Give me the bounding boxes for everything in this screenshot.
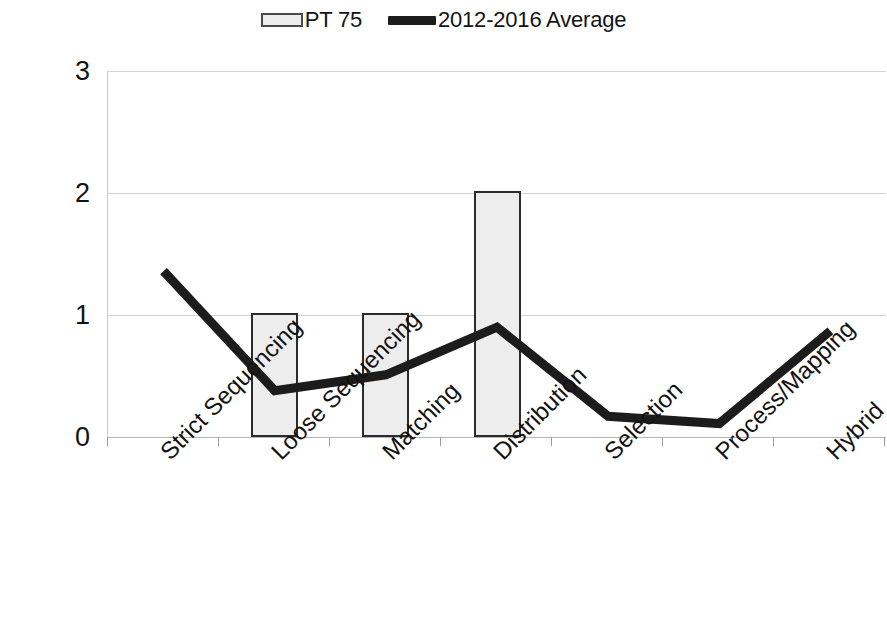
y-axis-labels: 0 1 2 3 — [0, 71, 108, 438]
bar-swatch-icon — [261, 13, 303, 27]
legend-label-line: 2012-2016 Average — [438, 9, 626, 31]
y-tick-label-1: 1 — [75, 302, 90, 329]
line-swatch-icon — [388, 16, 436, 25]
legend-entry-bar: PT 75 — [261, 9, 362, 31]
chart-legend: PT 75 2012-2016 Average — [0, 4, 887, 36]
chart-container: PT 75 2012-2016 Average 0 1 2 3 — [0, 0, 887, 634]
legend-entry-line: 2012-2016 Average — [388, 9, 626, 31]
y-tick-label-3: 3 — [75, 58, 90, 85]
x-axis-labels: Strict SequencingLoose SequencingMatchin… — [0, 437, 887, 634]
legend-label-bar: PT 75 — [305, 9, 362, 31]
y-tick-label-2: 2 — [75, 180, 90, 207]
